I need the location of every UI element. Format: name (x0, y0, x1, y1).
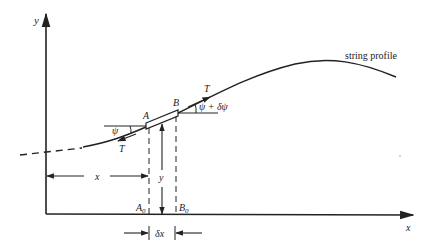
angle-right: ψ + δψ (178, 101, 229, 113)
x-axis (46, 214, 413, 215)
y-dimension: y (158, 124, 164, 214)
y-axis-label: y (33, 14, 39, 26)
tension-right-label: T (204, 83, 211, 94)
y-dimension-label: y (158, 172, 164, 183)
point-A-label: A (142, 110, 150, 121)
string-element-diagram: y x string profile A B ψ ψ + δψ T T A0 (0, 0, 431, 249)
curve-dashed-extension (20, 148, 82, 155)
curve-solid (83, 60, 396, 147)
string-element: A B (142, 97, 179, 129)
axes: y x (33, 14, 413, 233)
stray-dot (399, 155, 401, 157)
x-axis-label: x (405, 222, 411, 233)
point-B-label: B (173, 97, 179, 108)
angle-psi-plus-dpsi-label: ψ + δψ (199, 101, 229, 112)
angle-left: ψ (104, 125, 146, 136)
point-B0-label: B0 (179, 202, 189, 215)
tension-left-label: T (119, 143, 126, 154)
point-A0-label: A0 (135, 202, 146, 215)
angle-psi-label: ψ (112, 125, 119, 136)
x-dimension-label: x (94, 171, 100, 182)
delta-x-dimension: δx (124, 226, 202, 240)
curve-label: string profile (345, 50, 397, 61)
x-dimension: x (47, 171, 148, 182)
delta-x-label: δx (155, 228, 165, 239)
